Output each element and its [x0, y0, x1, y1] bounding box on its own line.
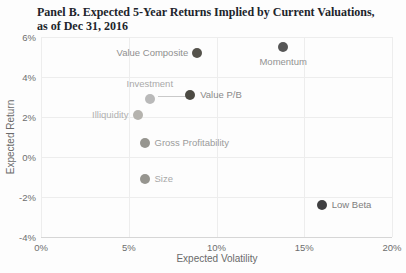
- y-axis-title: Expected Return: [5, 77, 17, 197]
- y-tick-label: 4%: [0, 72, 36, 83]
- data-point: [145, 94, 155, 104]
- data-point: [192, 48, 202, 58]
- x-axis-title: Expected Volatility: [117, 253, 317, 264]
- data-point: [140, 138, 150, 148]
- data-point: [317, 200, 327, 210]
- x-tick-label: 10%: [207, 242, 226, 253]
- data-point: [133, 110, 143, 120]
- y-tick-label: 2%: [0, 112, 36, 123]
- label-leader-line: [158, 96, 186, 97]
- chart-title-line1: Panel B. Expected 5-Year Returns Implied…: [37, 6, 375, 20]
- data-point-label: Low Beta: [332, 199, 372, 210]
- x-tick-label: 15%: [295, 242, 314, 253]
- v-gridline: [304, 37, 305, 237]
- y-tick-label: -4%: [0, 232, 36, 243]
- y-tick-label: 0%: [0, 152, 36, 163]
- data-point-label: Gross Profitability: [155, 137, 229, 148]
- x-tick-label: 0%: [34, 242, 48, 253]
- y-tick-label: -2%: [0, 192, 36, 203]
- chart-panel: Panel B. Expected 5-Year Returns Implied…: [0, 0, 406, 273]
- x-tick-label: 20%: [382, 242, 401, 253]
- chart-title-line2: as of Dec 31, 2016: [37, 20, 375, 34]
- data-point: [185, 90, 195, 100]
- data-point: [140, 174, 150, 184]
- data-point-label: Value Composite: [117, 47, 189, 58]
- chart-title: Panel B. Expected 5-Year Returns Implied…: [37, 6, 375, 33]
- data-point-label: Value P/B: [200, 89, 242, 100]
- x-axis-line: [41, 237, 392, 238]
- x-tick-label: 5%: [122, 242, 136, 253]
- data-point: [278, 42, 288, 52]
- data-point-label: Size: [155, 173, 173, 184]
- v-gridline: [129, 37, 130, 237]
- v-gridline: [392, 37, 393, 237]
- data-point-label: Illiquidity: [92, 109, 128, 120]
- data-point-label: Momentum: [259, 56, 307, 67]
- data-point-label: Investment: [127, 78, 173, 89]
- v-gridline: [41, 37, 42, 237]
- y-tick-label: 6%: [0, 32, 36, 43]
